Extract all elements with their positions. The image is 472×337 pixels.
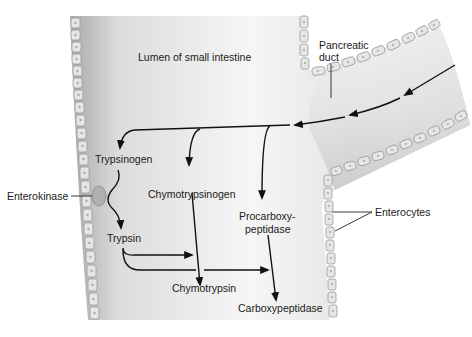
chymotrypsin-label: Chymotrypsin [172, 282, 236, 294]
enterokinase-enzyme [92, 186, 106, 206]
lumen-label: Lumen of small intestine [138, 51, 251, 63]
enterocytes-leader-2 [335, 212, 372, 231]
small-intestine-lumen [70, 16, 470, 320]
procarboxypeptidase-label-2: peptidase [245, 223, 291, 235]
trypsinogen-label: Trypsinogen [95, 153, 153, 165]
enterocytes-label: Enterocytes [375, 206, 430, 218]
enterokinase-label: Enterokinase [7, 190, 68, 202]
procarboxypeptidase-label-1: Procarboxy- [239, 210, 296, 222]
chymotrypsinogen-label: Chymotrypsinogen [148, 188, 236, 200]
carboxypeptidase-label: Carboxypeptidase [238, 302, 323, 314]
protease-activation-diagram: Lumen of small intestine Pancreatic duct… [0, 0, 472, 337]
trypsin-label: Trypsin [107, 232, 141, 244]
pancreatic-duct-label-2: duct [319, 51, 339, 63]
pancreatic-duct-label-1: Pancreatic [319, 39, 369, 51]
